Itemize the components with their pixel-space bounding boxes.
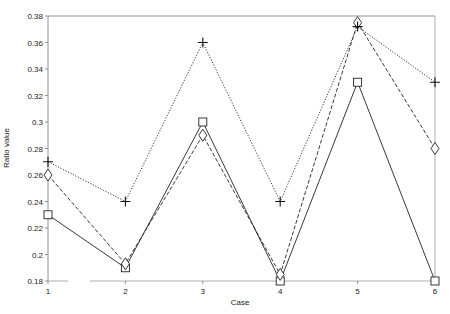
x-tick-label: 3: [201, 287, 206, 296]
y-tick-label: 0.36: [27, 39, 43, 48]
x-tick-label: 5: [355, 287, 360, 296]
series-plus-dotted: [43, 22, 440, 207]
square-marker: [431, 277, 439, 285]
x-tick-label: 2: [123, 287, 128, 296]
square-marker: [44, 211, 52, 219]
y-axis-ticks: 0.180.20.220.240.260.280.30.320.340.360.…: [27, 12, 48, 286]
series-diamond-dashed: [44, 17, 439, 281]
square-marker: [354, 78, 362, 86]
x-tick-label: 6: [433, 287, 438, 296]
data-series: [43, 17, 440, 285]
x-tick-label: 1: [46, 287, 51, 296]
x-axis-title: Case: [231, 298, 250, 307]
series-square-solid: [44, 78, 439, 285]
diamond-marker: [431, 143, 439, 155]
y-tick-label: 0.34: [27, 65, 43, 74]
y-tick-label: 0.38: [27, 12, 43, 21]
x-axis-ticks: 123456: [46, 281, 438, 296]
y-tick-label: 0.18: [27, 277, 43, 286]
line-chart: 0.180.20.220.240.260.280.30.320.340.360.…: [0, 0, 450, 314]
x-tick-label: 4: [278, 287, 283, 296]
plus-marker: [43, 157, 53, 167]
y-tick-label: 0.2: [32, 251, 44, 260]
y-tick-label: 0.3: [32, 118, 44, 127]
y-tick-label: 0.24: [27, 198, 43, 207]
diamond-marker: [44, 169, 52, 181]
plus-marker: [198, 38, 208, 48]
plus-marker: [275, 197, 285, 207]
y-tick-label: 0.22: [27, 224, 43, 233]
plot-frame: [48, 16, 435, 281]
series-line: [48, 27, 435, 202]
y-tick-label: 0.32: [27, 92, 43, 101]
y-tick-label: 0.26: [27, 171, 43, 180]
series-line: [48, 82, 435, 281]
series-line: [48, 23, 435, 275]
y-tick-label: 0.28: [27, 145, 43, 154]
y-axis-title: Ratio value: [2, 127, 11, 168]
plus-marker: [120, 197, 130, 207]
square-marker: [199, 118, 207, 126]
plus-marker: [430, 77, 440, 87]
